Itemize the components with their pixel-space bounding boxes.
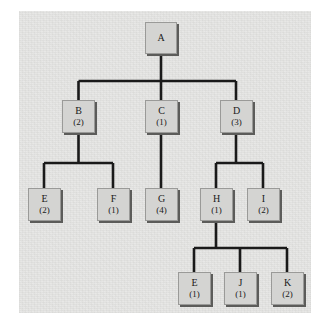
node-label: E xyxy=(191,278,197,289)
node-label: G xyxy=(158,194,165,205)
tree-node-i[interactable]: I (2) xyxy=(247,188,280,221)
tree-node-e-under-b[interactable]: E (2) xyxy=(28,188,61,221)
node-count: (3) xyxy=(231,118,242,127)
node-label: H xyxy=(213,194,220,205)
node-label: J xyxy=(239,278,243,289)
node-count: (2) xyxy=(39,206,50,215)
node-label: C xyxy=(158,106,165,117)
tree-node-k[interactable]: K (2) xyxy=(271,272,304,305)
node-label: K xyxy=(284,278,291,289)
node-count: (4) xyxy=(156,206,167,215)
node-count: (2) xyxy=(282,290,293,299)
node-label: I xyxy=(262,194,265,205)
tree-node-c[interactable]: C (1) xyxy=(145,100,178,133)
node-label: D xyxy=(233,106,240,117)
node-count: (1) xyxy=(189,290,200,299)
node-count: (1) xyxy=(235,290,246,299)
tree-node-e-under-h[interactable]: E (1) xyxy=(178,272,211,305)
node-count: (2) xyxy=(258,206,269,215)
node-count: (1) xyxy=(156,118,167,127)
tree-node-f[interactable]: F (1) xyxy=(97,188,130,221)
node-label: F xyxy=(111,194,117,205)
node-label: E xyxy=(41,194,47,205)
tree-node-h[interactable]: H (1) xyxy=(200,188,233,221)
tree-node-j[interactable]: J (1) xyxy=(224,272,257,305)
tree-node-b[interactable]: B (2) xyxy=(62,100,95,133)
tree-node-d[interactable]: D (3) xyxy=(220,100,253,133)
tree-node-g[interactable]: G (4) xyxy=(145,188,178,221)
node-count: (1) xyxy=(108,206,119,215)
tree-node-a[interactable]: A xyxy=(145,22,177,54)
node-label: B xyxy=(75,106,82,117)
node-count: (2) xyxy=(73,118,84,127)
diagram-canvas: A B (2) C (1) D (3) E (2) F (1) G (4) H … xyxy=(0,0,327,323)
node-label: A xyxy=(157,33,164,44)
node-count: (1) xyxy=(211,206,222,215)
